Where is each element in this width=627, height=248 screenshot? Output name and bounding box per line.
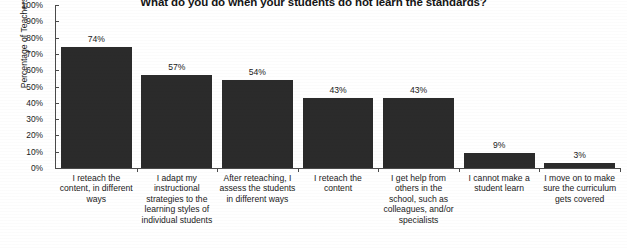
chart-plot-area: 100%90%80%70%60%50%40%30%20%10%0% 74%57%… <box>0 0 627 248</box>
y-axis-tick-mark <box>55 135 59 136</box>
bar-value-label: 43% <box>298 85 379 95</box>
y-axis-tick-mark <box>55 119 59 120</box>
y-axis-tick-label: 100% <box>22 0 43 10</box>
x-axis-category-label: I reteach the content, in different ways <box>58 173 135 204</box>
y-axis-tick-label: 90% <box>26 16 43 26</box>
y-axis-tick-labels: 100%90%80%70%60%50%40%30%20%10%0% <box>6 0 50 175</box>
y-axis-tick-label: 70% <box>26 49 43 59</box>
bar-value-label: 9% <box>459 140 540 150</box>
y-axis-tick-mark <box>55 87 59 88</box>
x-axis-tick-mark <box>298 168 299 172</box>
bar[interactable] <box>141 75 212 168</box>
bar[interactable] <box>222 80 293 168</box>
x-axis-category-labels: I reteach the content, in different ways… <box>56 173 620 245</box>
y-axis-tick-mark <box>55 168 59 169</box>
bar-value-label: 54% <box>217 67 298 77</box>
bar-value-label: 43% <box>378 85 459 95</box>
x-axis-category-label: I get help from others in the school, su… <box>380 173 457 225</box>
bar-group[interactable]: 43% <box>298 5 379 168</box>
bar-value-label: 57% <box>137 62 218 72</box>
x-axis-tick-mark <box>378 168 379 172</box>
bar[interactable] <box>61 47 132 168</box>
y-axis-tick-label: 20% <box>26 130 43 140</box>
x-axis-tick-mark <box>459 168 460 172</box>
bar[interactable] <box>544 163 615 168</box>
y-axis-tick-mark <box>55 5 59 6</box>
y-axis-tick-label: 40% <box>26 98 43 108</box>
bar-group[interactable]: 43% <box>378 5 459 168</box>
x-axis-line <box>55 168 620 169</box>
bar-group[interactable]: 3% <box>539 5 620 168</box>
bar[interactable] <box>383 98 454 168</box>
y-axis-tick-mark <box>55 54 59 55</box>
bar-group[interactable]: 57% <box>137 5 218 168</box>
y-axis-tick-label: 80% <box>26 33 43 43</box>
bar[interactable] <box>303 98 374 168</box>
x-axis-category-label: After reteaching, I assess the students … <box>219 173 296 204</box>
y-axis-tick-label: 50% <box>26 82 43 92</box>
y-axis-tick-label: 10% <box>26 147 43 157</box>
x-axis-tick-mark <box>137 168 138 172</box>
y-axis-tick-label: 30% <box>26 114 43 124</box>
bar-value-label: 3% <box>539 150 620 160</box>
bar-group[interactable]: 54% <box>217 5 298 168</box>
y-axis-tick-label: 60% <box>26 65 43 75</box>
y-axis-tick-mark <box>55 152 59 153</box>
bar-group[interactable]: 9% <box>459 5 540 168</box>
bar[interactable] <box>464 153 535 168</box>
x-axis-category-label: I adapt my instructional strategies to t… <box>139 173 216 225</box>
bar-group[interactable]: 74% <box>56 5 137 168</box>
y-axis-tick-mark <box>55 103 59 104</box>
bar-value-label: 74% <box>56 34 137 44</box>
x-axis-tick-mark <box>620 168 621 172</box>
x-axis-category-label: I reteach the content <box>300 173 377 194</box>
x-axis-tick-mark <box>217 168 218 172</box>
x-axis-category-label: I move on to make sure the curriculum ge… <box>541 173 618 204</box>
bars-container: 74%57%54%43%43%9%3% <box>56 5 620 168</box>
y-axis-tick-mark <box>55 38 59 39</box>
x-axis-category-label: I cannot make a student learn <box>461 173 538 194</box>
x-axis-tick-mark <box>539 168 540 172</box>
y-axis-tick-mark <box>55 70 59 71</box>
y-axis-tick-label: 0% <box>31 163 43 173</box>
y-axis-tick-mark <box>55 21 59 22</box>
